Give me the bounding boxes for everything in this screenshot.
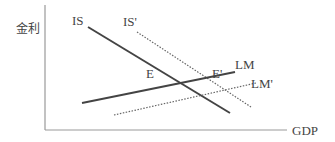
lm-prime-curve	[114, 83, 256, 115]
x-axis-label: GDP	[292, 123, 318, 138]
is-prime-label: IS'	[123, 14, 137, 29]
y-axis-label: 金利	[16, 21, 40, 36]
is-curve	[88, 27, 230, 113]
equilibrium-e-prime-label: E'	[212, 66, 222, 81]
equilibrium-e-label: E	[146, 66, 154, 81]
is-prime-curve	[137, 32, 251, 107]
lm-prime-label: LM'	[251, 76, 273, 91]
is-label: IS	[72, 13, 84, 28]
lm-label: LM	[235, 57, 255, 72]
is-lm-diagram: 金利 GDP IS IS' LM LM' E E'	[0, 0, 335, 142]
